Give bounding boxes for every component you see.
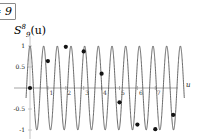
sample-point-marker [100, 72, 104, 76]
y-tick-label: -1 [4, 127, 25, 133]
x-tick-label: 1 [49, 90, 53, 96]
sample-point-marker [117, 100, 121, 104]
x-tick-label: 2 [67, 90, 71, 96]
sample-point-marker [28, 86, 32, 90]
x-tick-label: 3 [85, 90, 89, 96]
sample-point-marker [135, 122, 139, 126]
axes-group [14, 36, 178, 139]
x-tick-label: 7 [157, 90, 161, 96]
figure-panel: = 9 S89(u) 10.5-0.5-1 1234567 u [0, 0, 198, 139]
x-axis-title: u [186, 82, 191, 89]
x-tick-label: 5 [121, 90, 125, 96]
sample-point-marker [82, 49, 86, 53]
y-tick-label: -0.5 [4, 106, 25, 112]
x-tick-label: 6 [139, 90, 143, 96]
y-tick-label: 0.5 [4, 64, 25, 70]
x-tick-label: 4 [103, 90, 107, 96]
sample-point-marker [171, 113, 175, 117]
sample-point-marker [153, 127, 157, 131]
sample-point-marker [64, 45, 68, 49]
sample-point-marker [46, 59, 50, 63]
y-tick-label: 1 [4, 43, 25, 49]
plot-canvas [0, 0, 198, 139]
